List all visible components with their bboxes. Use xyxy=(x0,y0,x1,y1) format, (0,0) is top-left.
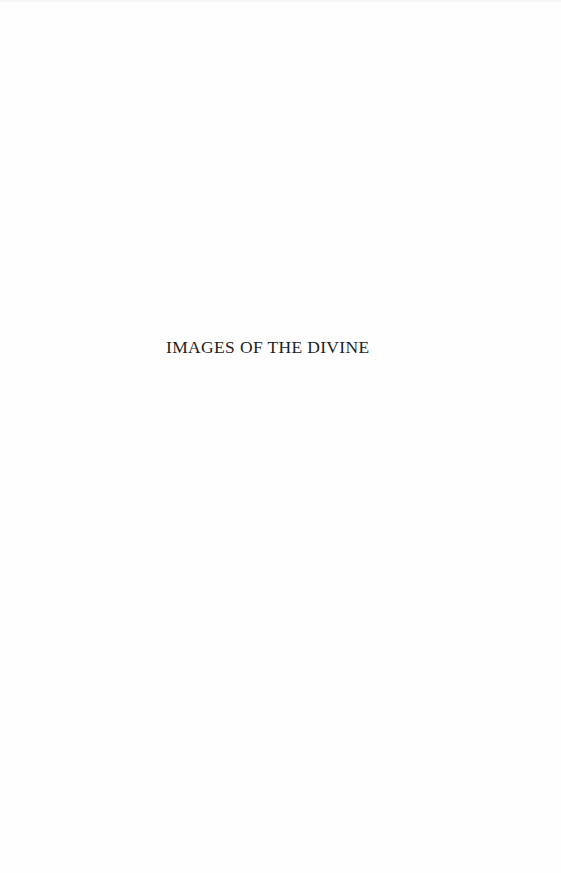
book-page: IMAGES OF THE DIVINE xyxy=(0,0,561,873)
scan-top-edge xyxy=(0,0,561,3)
half-title: IMAGES OF THE DIVINE xyxy=(166,337,370,357)
